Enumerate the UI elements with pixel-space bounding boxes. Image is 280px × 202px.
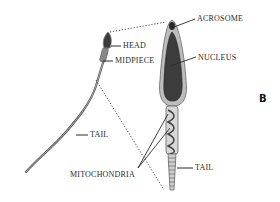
label-mitochondria: MITOCHONDRIA (70, 171, 135, 179)
panel-letter: B (259, 93, 267, 104)
label-tail-right: TAIL (195, 164, 213, 172)
label-tail-left: TAIL (90, 131, 108, 139)
label-midpiece: MIDPIECE (115, 57, 154, 65)
diagram-drawing (0, 0, 280, 202)
sperm-cell-diagram: HEAD MIDPIECE TAIL ACROSOME NUCLEUS MITO… (0, 0, 280, 202)
label-head: HEAD (123, 42, 146, 50)
whole-sperm-illustration (26, 32, 111, 172)
label-acrosome: ACROSOME (197, 15, 243, 23)
label-nucleus: NUCLEUS (198, 54, 236, 62)
enlarged-sperm-illustration (159, 20, 186, 190)
